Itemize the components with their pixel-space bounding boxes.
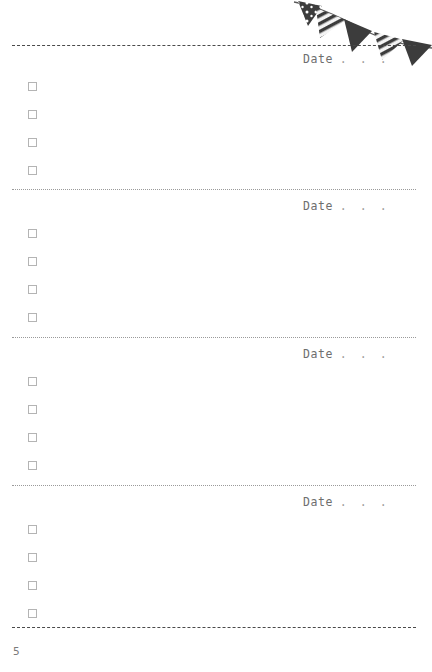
date-label-3: Date xyxy=(303,347,333,361)
bunting-flag-striped-1 xyxy=(316,8,346,38)
task-text-input[interactable] xyxy=(46,303,416,331)
task-text-input[interactable] xyxy=(46,128,416,156)
checkbox-icon[interactable] xyxy=(28,525,37,534)
date-dot-4-2: . xyxy=(353,495,373,509)
section-divider-2 xyxy=(12,337,416,338)
task-row[interactable] xyxy=(0,395,432,423)
checkbox-icon[interactable] xyxy=(28,609,37,618)
task-row[interactable] xyxy=(0,423,432,451)
task-row[interactable] xyxy=(0,72,432,100)
date-dots-1: . . . xyxy=(333,52,393,66)
task-row[interactable] xyxy=(0,599,432,627)
task-row[interactable] xyxy=(0,219,432,247)
date-dot-4-3: . xyxy=(373,495,393,509)
checkbox-icon[interactable] xyxy=(28,553,37,562)
task-text-input[interactable] xyxy=(46,72,416,100)
task-text-input[interactable] xyxy=(46,156,416,184)
task-list-3 xyxy=(0,367,432,479)
task-row[interactable] xyxy=(0,543,432,571)
task-text-input[interactable] xyxy=(46,275,416,303)
task-text-input[interactable] xyxy=(46,395,416,423)
checkbox-icon[interactable] xyxy=(28,166,37,175)
task-text-input[interactable] xyxy=(46,367,416,395)
checkbox-icon[interactable] xyxy=(28,82,37,91)
bunting-flag-solid-1 xyxy=(344,19,372,52)
date-dot-2-3: . xyxy=(373,199,393,213)
checkbox-icon[interactable] xyxy=(28,257,37,266)
checkbox-icon[interactable] xyxy=(28,405,37,414)
date-label-2: Date xyxy=(303,199,333,213)
task-text-input[interactable] xyxy=(46,219,416,247)
task-text-input[interactable] xyxy=(46,247,416,275)
date-field-1[interactable]: Date . . . xyxy=(303,52,393,68)
task-row[interactable] xyxy=(0,128,432,156)
task-text-input[interactable] xyxy=(46,423,416,451)
bunting-string xyxy=(294,2,432,48)
date-label-4: Date xyxy=(303,495,333,509)
task-list-2 xyxy=(0,219,432,331)
task-list-1 xyxy=(0,72,432,184)
date-field-3[interactable]: Date . . . xyxy=(303,347,393,363)
task-row[interactable] xyxy=(0,247,432,275)
checkbox-icon[interactable] xyxy=(28,433,37,442)
task-row[interactable] xyxy=(0,571,432,599)
task-row[interactable] xyxy=(0,515,432,543)
task-text-input[interactable] xyxy=(46,599,416,627)
bunting-flag-solid-2 xyxy=(402,39,432,66)
page-number: 5 xyxy=(13,645,20,658)
task-text-input[interactable] xyxy=(46,571,416,599)
task-row[interactable] xyxy=(0,100,432,128)
date-dots-4: . . . xyxy=(333,495,393,509)
date-dot-4-1: . xyxy=(333,495,353,509)
task-row[interactable] xyxy=(0,156,432,184)
checkbox-icon[interactable] xyxy=(28,461,37,470)
checkbox-icon[interactable] xyxy=(28,138,37,147)
date-dot-2-1: . xyxy=(333,199,353,213)
date-dot-1-1: . xyxy=(333,52,353,66)
top-divider xyxy=(12,45,416,46)
task-row[interactable] xyxy=(0,303,432,331)
task-list-4 xyxy=(0,515,432,627)
checkbox-icon[interactable] xyxy=(28,229,37,238)
task-row[interactable] xyxy=(0,275,432,303)
bottom-divider xyxy=(12,627,416,628)
task-text-input[interactable] xyxy=(46,543,416,571)
date-dot-2-2: . xyxy=(353,199,373,213)
bunting-flag-dotted-1 xyxy=(298,1,322,26)
date-dots-3: . . . xyxy=(333,347,393,361)
task-row[interactable] xyxy=(0,367,432,395)
planner-page: Date . . . xyxy=(0,0,432,672)
section-divider-1 xyxy=(12,189,416,190)
date-dot-1-3: . xyxy=(373,52,393,66)
date-label-1: Date xyxy=(303,52,333,66)
checkbox-icon[interactable] xyxy=(28,313,37,322)
checkbox-icon[interactable] xyxy=(28,285,37,294)
date-dots-2: . . . xyxy=(333,199,393,213)
date-dot-1-2: . xyxy=(353,52,373,66)
task-text-input[interactable] xyxy=(46,515,416,543)
checkbox-icon[interactable] xyxy=(28,581,37,590)
task-text-input[interactable] xyxy=(46,100,416,128)
date-dot-3-2: . xyxy=(353,347,373,361)
section-divider-3 xyxy=(12,485,416,486)
task-row[interactable] xyxy=(0,451,432,479)
task-text-input[interactable] xyxy=(46,451,416,479)
date-field-2[interactable]: Date . . . xyxy=(303,199,393,215)
date-field-4[interactable]: Date . . . xyxy=(303,495,393,511)
checkbox-icon[interactable] xyxy=(28,110,37,119)
date-dot-3-1: . xyxy=(333,347,353,361)
checkbox-icon[interactable] xyxy=(28,377,37,386)
date-dot-3-3: . xyxy=(373,347,393,361)
